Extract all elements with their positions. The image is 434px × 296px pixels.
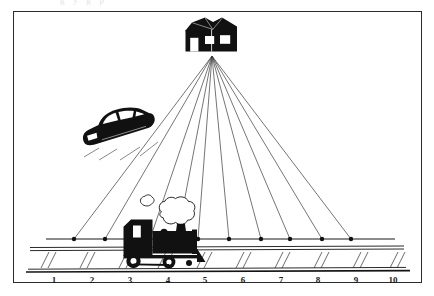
ruler-tick-label-7: 7 [271, 275, 291, 286]
locomotive-icon [124, 220, 206, 269]
locomotive-cowcatcher [197, 249, 206, 263]
car-motion-line-4 [140, 142, 158, 156]
locomotive-smokebox-front [192, 230, 197, 255]
railroad-tie-2b [87, 252, 95, 268]
smoke-puff-small-icon [140, 195, 154, 206]
locomotive-driver-wheel-front-hub [166, 259, 171, 264]
railroad-tie-9b [360, 252, 368, 268]
ray-point-9 [320, 237, 324, 241]
ray-point-8 [288, 237, 292, 241]
page-root: g y g p [0, 0, 434, 296]
railroad-tie-10a [390, 252, 398, 268]
railroad-tie-1a [41, 252, 49, 268]
ray-line-10 [212, 56, 351, 239]
locomotive-coupling-rod [134, 264, 170, 265]
car-motion-line-3 [120, 147, 140, 160]
railroad-tie-1b [48, 252, 56, 268]
car-motion-lines [84, 142, 158, 160]
car-motion-line-1 [84, 148, 99, 157]
railroad-tie-7a [275, 252, 283, 268]
ray-line-5 [198, 56, 212, 239]
ray-line-6 [212, 56, 229, 239]
ruler-tick-label-4: 4 [158, 275, 178, 286]
ray-point-1 [72, 237, 76, 241]
car-motion-line-2 [99, 149, 117, 160]
rail-far-bottom [30, 249, 404, 251]
ruler-tick-label-10: 10 [383, 275, 403, 286]
ruler-tick-label-2: 2 [82, 275, 102, 286]
railroad-ties [41, 252, 405, 268]
railroad-tie-2a [80, 252, 88, 268]
ruler-tick-label-9: 9 [346, 275, 366, 286]
smoke-puff-large-icon [159, 197, 195, 224]
locomotive-cab-window [133, 226, 141, 238]
railroad-tie-5b [204, 252, 212, 268]
locomotive-cab [124, 220, 153, 257]
ruler-tick-label-6: 6 [233, 275, 253, 286]
house-door [190, 38, 198, 52]
house-roof [186, 18, 238, 32]
railroad-track [28, 246, 406, 269]
locomotive-steam-dome [161, 229, 168, 232]
ruler-tick-label-8: 8 [308, 275, 328, 286]
ruler-tick-label-5: 5 [195, 275, 215, 286]
perspective-ray-lines [74, 56, 351, 239]
railroad-tie-6a [236, 252, 244, 268]
house-window-left [205, 36, 214, 44]
locomotive-driver-wheel-rear-hub [131, 258, 137, 264]
rail-far-top [30, 246, 404, 248]
locomotive-smokestack [176, 224, 186, 232]
ray-line-8 [212, 56, 290, 239]
ray-line-9 [212, 56, 322, 239]
perspective-diagram [0, 0, 434, 296]
railroad-tie-7b [282, 252, 290, 268]
ray-point-7 [259, 237, 263, 241]
ray-line-7 [212, 56, 261, 239]
ray-point-2 [103, 237, 107, 241]
ruler-tick-label-1: 1 [44, 275, 64, 286]
ray-line-2 [105, 56, 212, 239]
ray-point-10 [349, 237, 353, 241]
locomotive-boiler [153, 231, 193, 254]
railroad-tie-6b [243, 252, 251, 268]
car-icon [78, 102, 157, 147]
locomotive-pilot-wheel [186, 260, 192, 266]
rail-near [28, 267, 406, 269]
house-window-right [220, 35, 230, 44]
railroad-tie-9a [353, 252, 361, 268]
railroad-tie-8a [314, 252, 322, 268]
railroad-tie-10b [397, 252, 405, 268]
ray-point-6 [227, 237, 231, 241]
ruler-baseline [26, 271, 410, 272]
ruler-tick-label-3: 3 [120, 275, 140, 286]
house-icon [186, 18, 238, 52]
railroad-tie-8b [321, 252, 329, 268]
